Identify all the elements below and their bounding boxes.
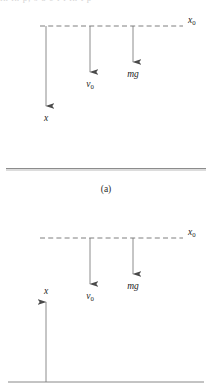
physics-figure: in in p; s o e i i in t p x0 x v0 mg — [0, 0, 212, 388]
label-x0-a: x0 — [187, 15, 196, 26]
label-initial-velocity-b: v0 — [86, 291, 94, 302]
panel-b-axis-up: x0 v0 mg x — [0, 206, 212, 388]
label-gravity-force-a: mg — [127, 69, 139, 79]
panel-a-axis-down: x0 x v0 mg — [0, 0, 212, 160]
separator-rule-light — [6, 169, 206, 171]
label-position-axis-b: x — [43, 286, 49, 296]
label-position-axis-a: x — [43, 113, 49, 123]
panel-b-diagram: x0 v0 mg x — [0, 206, 212, 388]
panel-a-diagram: x0 x v0 mg — [0, 0, 212, 160]
caption-panel-a: (a) — [0, 184, 212, 194]
label-initial-velocity-a: v0 — [86, 79, 94, 90]
panel-separator — [6, 168, 206, 172]
label-x0-b: x0 — [187, 227, 196, 238]
label-gravity-force-b: mg — [127, 281, 139, 291]
